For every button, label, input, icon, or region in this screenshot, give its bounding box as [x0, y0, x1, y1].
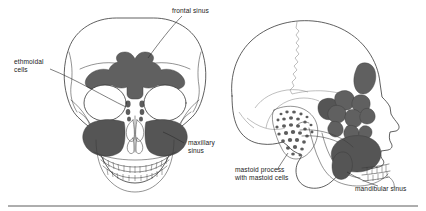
- lateral-skull-view: [232, 21, 399, 189]
- label-maxillary-sinus-line2: sinus: [188, 147, 204, 154]
- label-maxillary-sinus-line1: maxillary: [188, 139, 216, 147]
- label-mastoid-process-line2: with mastoid cells: [234, 174, 289, 181]
- maxillary-sinus-right: [145, 120, 187, 157]
- orbit-right: [144, 85, 186, 121]
- label-ethmoidal-cells-line2: cells: [14, 66, 28, 73]
- ethmoidal-cells-lateral: [328, 91, 375, 141]
- anatomical-figure: frontal sinus ethmoidal cells maxillary …: [0, 0, 426, 211]
- orbit-left: [84, 85, 126, 121]
- anterior-skull-view: [64, 18, 206, 192]
- label-ethmoidal-cells-line1: ethmoidal: [14, 58, 44, 65]
- label-mastoid-process-line1: mastoid process: [235, 166, 285, 174]
- label-mandibular-sinus: mandibular sinus: [355, 185, 407, 192]
- leader-mandibular-sinus: [347, 172, 378, 186]
- maxillary-sinus-left: [83, 120, 125, 157]
- label-frontal-sinus: frontal sinus: [172, 7, 209, 14]
